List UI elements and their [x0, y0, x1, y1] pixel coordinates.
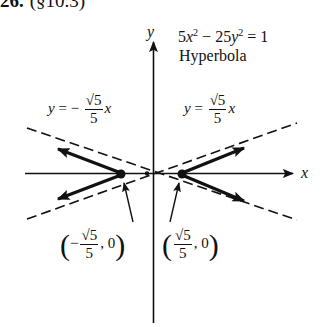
- hyperbola-right-branch: [178, 148, 245, 201]
- asym-pos-lhs: y: [184, 100, 191, 116]
- right-vertex-rest: , 0: [194, 235, 209, 251]
- eq-exp-y: 2: [238, 27, 243, 38]
- left-vertex-pointer: [124, 183, 133, 222]
- x-axis-label: x: [301, 165, 308, 181]
- right-vertex-pointer: [170, 183, 179, 222]
- asym-neg-lhs: y: [48, 100, 55, 116]
- left-vertex-close-paren: ): [115, 228, 125, 261]
- left-vertex-fraction: √5 5: [80, 228, 98, 261]
- asym-neg-eq: = −: [58, 100, 79, 116]
- left-vertex-sign: −: [70, 235, 78, 251]
- asymptote-negative-label: y = − √5 5 x: [48, 93, 111, 126]
- hyperbola-equation: 5x2 − 25y2 = 1: [178, 28, 268, 45]
- asymptote-positive-label: y = √5 5 x: [184, 93, 235, 126]
- left-vertex-den: 5: [86, 245, 94, 261]
- asym-pos-num: √5: [209, 93, 227, 110]
- eq-rhs: 1: [260, 28, 268, 45]
- asym-neg-fraction: √5 5: [85, 93, 103, 126]
- right-vertex-num: √5: [174, 228, 192, 245]
- asym-neg-den: 5: [90, 110, 98, 126]
- left-vertex-rest: , 0: [100, 235, 115, 251]
- eq-equals: =: [247, 28, 256, 45]
- right-vertex-den: 5: [179, 245, 187, 261]
- asym-pos-den: 5: [214, 110, 222, 126]
- right-vertex-fraction: √5 5: [174, 228, 192, 261]
- left-vertex-num: √5: [80, 228, 98, 245]
- asymptote-positive: [27, 123, 297, 219]
- eq-exp-x: 2: [193, 27, 198, 38]
- eq-coef-x: 5: [178, 28, 186, 45]
- asym-neg-num: √5: [85, 93, 103, 110]
- y-axis-label: y: [147, 24, 154, 40]
- right-vertex-close-paren: ): [209, 228, 219, 261]
- asym-pos-var: x: [228, 100, 235, 116]
- asym-pos-eq: =: [194, 100, 202, 116]
- right-vertex-open-paren: (: [162, 228, 172, 261]
- asym-neg-var: x: [105, 100, 112, 116]
- curve-type-label: Hyperbola: [179, 48, 247, 64]
- left-vertex-open-paren: (: [60, 228, 70, 261]
- left-vertex-label: (− √5 5 , 0): [60, 228, 125, 261]
- hyperbola-graph: [0, 0, 325, 327]
- origin-point: [145, 171, 149, 175]
- asym-pos-fraction: √5 5: [209, 93, 227, 126]
- eq-coef-y: 25: [215, 28, 231, 45]
- eq-minus: −: [202, 28, 211, 45]
- right-vertex-label: ( √5 5 , 0): [162, 228, 219, 261]
